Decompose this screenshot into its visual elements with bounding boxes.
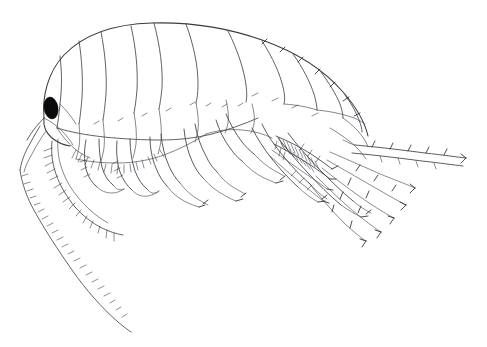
amphipod-drawing [0,0,487,347]
amphipod-figure [0,0,487,347]
figure-background [0,0,487,347]
